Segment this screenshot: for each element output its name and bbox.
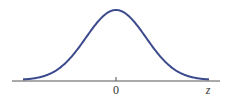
normal-curve-chart: 0 z bbox=[0, 0, 229, 99]
zero-label: 0 bbox=[113, 83, 119, 97]
z-axis-label: z bbox=[205, 83, 211, 97]
density-curve bbox=[23, 10, 209, 79]
